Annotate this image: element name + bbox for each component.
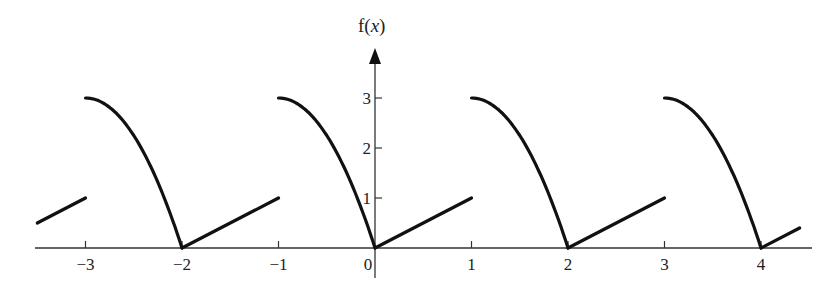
- segment-linear: [182, 198, 279, 248]
- y-axis-title: f(x): [358, 15, 385, 37]
- x-tick-label: 2: [564, 255, 573, 274]
- x-tick-label: 1: [467, 255, 476, 274]
- x-tick-label: 3: [660, 255, 669, 274]
- segment-curve: [86, 98, 183, 248]
- axes: [35, 48, 812, 278]
- function-curves: [37, 98, 799, 248]
- segment-linear: [568, 198, 665, 248]
- x-tick-label: 4: [757, 255, 766, 274]
- y-tick-label: 3: [363, 89, 372, 108]
- segment-linear: [375, 198, 472, 248]
- segment-curve: [472, 98, 569, 248]
- segment-linear: [761, 228, 800, 248]
- segment-curve: [665, 98, 762, 248]
- x-tick-label: −1: [269, 255, 287, 274]
- y-tick-label: 2: [363, 139, 372, 158]
- function-plot: −3−2−101234123 f(x): [0, 0, 837, 286]
- segment-linear: [37, 198, 85, 223]
- x-tick-label: −3: [76, 255, 94, 274]
- x-tick-label: 0: [364, 255, 373, 274]
- segment-curve: [279, 98, 376, 248]
- y-tick-label: 1: [363, 189, 372, 208]
- y-axis-arrow-icon: [369, 48, 381, 64]
- x-tick-label: −2: [173, 255, 191, 274]
